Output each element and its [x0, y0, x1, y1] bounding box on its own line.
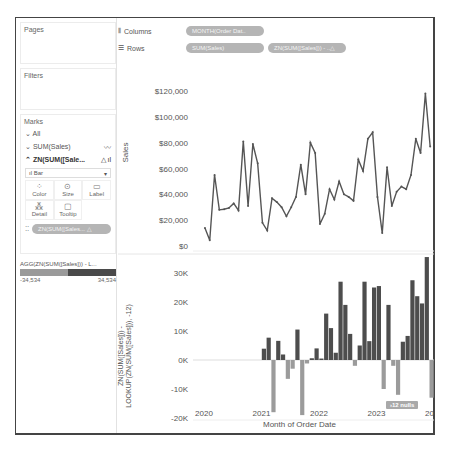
- legend-min: -34,534: [20, 277, 40, 283]
- svg-text:2021: 2021: [253, 409, 271, 418]
- rows-icon: ☰: [118, 44, 124, 52]
- sales-axis-title: Sales: [121, 138, 130, 168]
- diff-bar: [310, 358, 314, 360]
- svg-text:$120,000: $120,000: [155, 87, 189, 96]
- marks-sum-sales[interactable]: ⌄ SUM(Sales)〰: [21, 140, 115, 154]
- charts-svg[interactable]: $0$20,000$40,000$60,000$80,000$100,000$1…: [118, 58, 434, 433]
- diff-bar: [391, 360, 395, 366]
- svg-text:$80,000: $80,000: [159, 139, 188, 148]
- line-mark-icon: 〰: [104, 142, 111, 152]
- x-axis-title: Month of Order Date: [263, 420, 336, 429]
- mark-type-select[interactable]: ıl Bar▾: [25, 168, 111, 178]
- rows-pill-zn-sales[interactable]: ZN(SUM([Sales])) - ..△: [268, 43, 346, 53]
- color-field-icon: ⁚⁚: [25, 225, 29, 233]
- diff-bar: [396, 360, 400, 395]
- tooltip-icon: ▢: [64, 203, 72, 211]
- diff-bar: [358, 346, 362, 361]
- tableau-worksheet: Pages Filters Marks ⌄ All ⌄ SUM(Sales)〰 …: [15, 17, 435, 435]
- label-button[interactable]: ▭Label: [82, 180, 111, 200]
- color-legend: AGG(ZN(SUM([Sales])) - L... -34,53434,53…: [20, 259, 116, 283]
- label-icon: ▭: [93, 183, 101, 191]
- diff-bar: [271, 360, 275, 412]
- diff-bar: [420, 303, 424, 360]
- diff-axis-title: ZN(SUM([Sales])) - LOOKUP(ZN(SUM([Sales]…: [117, 301, 133, 411]
- diff-bar: [401, 342, 405, 360]
- diff-bar: [415, 296, 419, 360]
- svg-text:30K: 30K: [174, 269, 189, 278]
- svg-text:2023: 2023: [368, 409, 386, 418]
- diff-bar: [295, 330, 299, 360]
- sales-line: [205, 94, 430, 241]
- chevron-down-icon: ⌄: [25, 130, 33, 137]
- diff-bar: [353, 360, 357, 366]
- detail-icon: ⁂: [35, 203, 43, 211]
- svg-text:-20K: -20K: [171, 414, 189, 423]
- diff-bar: [319, 359, 323, 360]
- columns-shelf[interactable]: ⦀Columns MONTH(Order Dat..: [118, 25, 268, 37]
- color-button[interactable]: ⁘Color: [25, 180, 54, 200]
- pages-shelf[interactable]: Pages: [20, 22, 116, 64]
- svg-text:$20,000: $20,000: [159, 216, 188, 225]
- columns-pill-month[interactable]: MONTH(Order Dat..: [186, 26, 264, 36]
- svg-text:10K: 10K: [174, 327, 189, 336]
- dropdown-arrow-icon: ▾: [104, 170, 107, 177]
- svg-text:20K: 20K: [174, 298, 189, 307]
- diff-bar: [300, 360, 304, 415]
- diff-bar: [338, 282, 342, 360]
- size-icon: ⊙: [64, 183, 71, 191]
- columns-icon: ⦀: [118, 27, 121, 35]
- svg-text:$100,000: $100,000: [155, 113, 189, 122]
- tooltip-button[interactable]: ▢Tooltip: [54, 200, 83, 220]
- rows-pill-sum-sales[interactable]: SUM(Sales): [186, 43, 264, 53]
- color-icon: ⁘: [36, 183, 43, 191]
- legend-title: AGG(ZN(SUM([Sales])) - L...: [20, 261, 97, 267]
- svg-text:0K: 0K: [178, 356, 188, 365]
- diff-bar: [291, 360, 295, 369]
- diff-bar: [348, 334, 352, 360]
- diff-bar: [372, 288, 376, 361]
- svg-text:2022: 2022: [310, 409, 328, 418]
- diff-bar: [267, 338, 271, 360]
- svg-text:$0: $0: [179, 242, 188, 251]
- diff-bar: [406, 336, 410, 360]
- diff-bar: [410, 280, 414, 360]
- diff-bar: [276, 341, 280, 360]
- svg-text:2024: 2024: [425, 409, 434, 418]
- detail-button[interactable]: ⁂Detail: [25, 200, 54, 220]
- diff-bar: [343, 305, 347, 360]
- left-panel: Pages Filters Marks ⌄ All ⌄ SUM(Sales)〰 …: [16, 18, 117, 433]
- diff-bar: [386, 305, 390, 360]
- marks-zn-sales[interactable]: ⌃ ZN(SUM([Sale...△ ıl: [21, 154, 115, 166]
- size-button[interactable]: ⊙Size: [54, 180, 83, 200]
- svg-text:2020: 2020: [195, 409, 213, 418]
- diff-bar: [334, 353, 338, 360]
- diff-bar: [315, 348, 319, 360]
- marks-all[interactable]: ⌄ All: [21, 128, 115, 140]
- color-field-pill[interactable]: ZN(SUM([Sales... △: [32, 224, 111, 234]
- diff-bar: [324, 314, 328, 360]
- view-area: $0$20,000$40,000$60,000$80,000$100,000$1…: [118, 58, 434, 433]
- diff-bar: [425, 257, 429, 360]
- diff-bar: [430, 360, 434, 398]
- svg-text:-10K: -10K: [171, 385, 189, 394]
- svg-text:$60,000: $60,000: [159, 165, 188, 174]
- legend-color-ramp: [20, 269, 116, 276]
- nulls-indicator[interactable]: ›12 nulls: [386, 401, 418, 409]
- diff-bar: [377, 286, 381, 360]
- chevron-down-icon: ⌄: [25, 143, 33, 150]
- diff-bar: [367, 341, 371, 360]
- delta-bar-icon: △ ıl: [101, 156, 111, 164]
- diff-bar: [262, 349, 266, 360]
- legend-max: 34,534: [98, 277, 116, 283]
- filters-shelf[interactable]: Filters: [20, 68, 116, 110]
- marks-card: Marks ⌄ All ⌄ SUM(Sales)〰 ⌃ ZN(SUM([Sale…: [20, 114, 116, 254]
- filters-label: Filters: [21, 69, 115, 82]
- rows-shelf[interactable]: ☰Rows SUM(Sales) ZN(SUM([Sales])) - ..△: [118, 42, 350, 54]
- svg-text:$40,000: $40,000: [159, 190, 188, 199]
- pages-label: Pages: [21, 23, 115, 36]
- diff-bar: [362, 282, 366, 360]
- diff-bar: [305, 360, 309, 363]
- marks-title: Marks: [21, 115, 115, 128]
- chevron-up-icon: ⌃: [25, 156, 33, 163]
- diff-bar: [382, 360, 386, 389]
